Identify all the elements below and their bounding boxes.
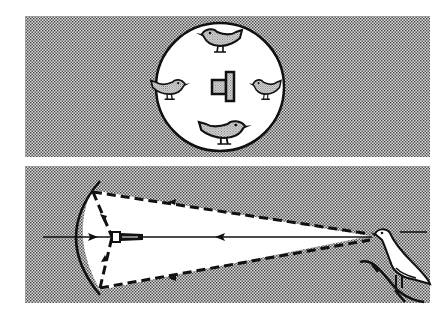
top-panel bbox=[25, 16, 430, 157]
bottom-panel bbox=[25, 166, 430, 303]
figure bbox=[0, 0, 447, 314]
